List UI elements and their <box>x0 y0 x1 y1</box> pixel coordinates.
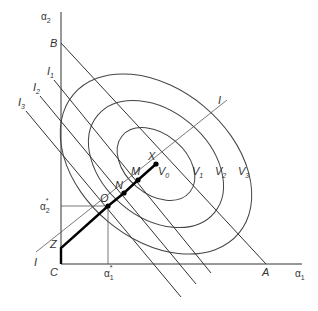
x-axis-label: α1 <box>295 268 305 281</box>
point-n <box>121 190 126 195</box>
label-v2: V2 <box>215 165 226 179</box>
label-a: A <box>261 266 269 278</box>
label-expansion-top: I <box>218 94 221 106</box>
label-v1: V1 <box>192 165 203 179</box>
label-expansion-bottom: I <box>34 256 37 268</box>
label-v3: V3 <box>238 165 249 179</box>
label-i2: I2 <box>33 81 40 95</box>
label-n: N <box>115 179 123 191</box>
economics-diagram: α2 α1 B A C Z O N M X α2* α1* I1 I2 I3 I… <box>0 0 318 311</box>
budget-line-ba <box>61 43 266 264</box>
point-o <box>105 203 110 208</box>
label-v0: V0 <box>158 165 169 179</box>
label-c: C <box>50 266 58 278</box>
label-alpha1-star: α1* <box>104 264 114 281</box>
label-m: M <box>131 165 141 177</box>
point-m <box>135 177 140 182</box>
label-i3: I3 <box>18 96 25 110</box>
label-i1: I1 <box>47 65 54 79</box>
y-axis-label: α2 <box>41 11 51 24</box>
label-o: O <box>100 192 109 204</box>
label-b: B <box>50 37 57 49</box>
label-alpha2-star: α2* <box>40 197 50 214</box>
label-z: Z <box>49 238 58 250</box>
label-x: X <box>147 150 156 162</box>
